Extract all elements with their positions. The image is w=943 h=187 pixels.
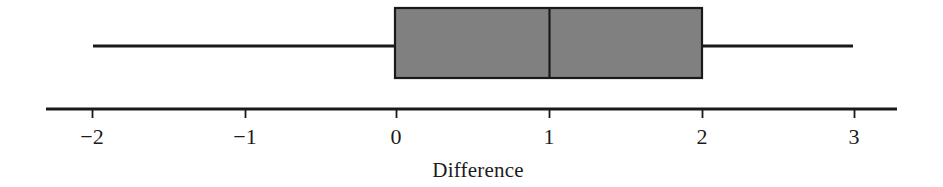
tick-label-3: 3 <box>849 124 860 149</box>
tick-label-neg2: −2 <box>80 124 103 149</box>
tick-label-0: 0 <box>391 124 402 149</box>
tick-label-2: 2 <box>697 124 708 149</box>
tick-label-neg1: −1 <box>233 124 256 149</box>
box-plot-canvas: −2 −1 0 1 2 3 Difference <box>0 0 943 187</box>
tick-label-1: 1 <box>544 124 555 149</box>
box-plot-figure: −2 −1 0 1 2 3 Difference <box>0 0 943 187</box>
x-axis-title: Difference <box>432 158 523 182</box>
